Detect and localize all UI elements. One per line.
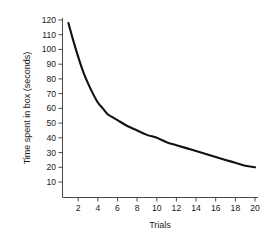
y-tick-label: 80 xyxy=(46,74,56,84)
y-tick-label: 70 xyxy=(46,89,56,99)
x-tick-label: 14 xyxy=(191,203,201,213)
x-tick-label: 16 xyxy=(211,203,221,213)
plot-canvas: 120 110 100 90 80 70 60 50 40 30 20 10 xyxy=(0,0,271,244)
y-tick-label: 30 xyxy=(46,148,56,158)
x-tick-label: 2 xyxy=(76,203,81,213)
y-tick-label: 50 xyxy=(46,118,56,128)
y-tick-label: 110 xyxy=(42,30,56,40)
learning-curve-chart: 120 110 100 90 80 70 60 50 40 30 20 10 xyxy=(0,0,271,244)
x-tick-label: 6 xyxy=(115,203,120,213)
y-tick-label: 90 xyxy=(46,59,56,69)
x-tick-label: 18 xyxy=(231,203,241,213)
y-tick-label: 60 xyxy=(46,103,56,113)
x-tick-label: 10 xyxy=(152,203,162,213)
y-tick-label: 20 xyxy=(46,162,56,172)
x-axis-title: Trials xyxy=(149,220,171,230)
y-axis-title: Time spent in box (seconds) xyxy=(22,52,32,165)
y-tick-label: 40 xyxy=(46,133,56,143)
y-tick-label: 120 xyxy=(42,15,57,25)
x-tick-label: 4 xyxy=(95,203,100,213)
y-tick-label: 10 xyxy=(46,177,56,187)
y-tick-label: 100 xyxy=(42,44,57,54)
x-tick-label: 12 xyxy=(172,203,182,213)
x-tick-label: 8 xyxy=(135,203,140,213)
x-tick-label: 20 xyxy=(250,203,260,213)
